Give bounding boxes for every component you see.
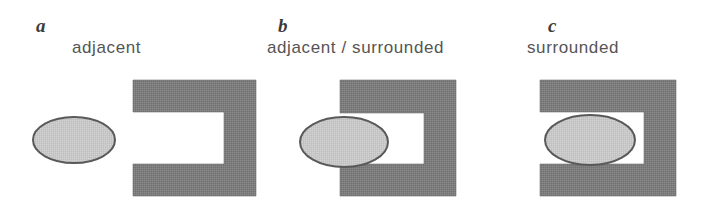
panel-b	[258, 0, 476, 208]
panel-letter-a: a	[36, 16, 46, 35]
figure-container: a adjacent b adjacent / surrounded c sur…	[0, 0, 704, 208]
panel-caption-a: adjacent	[72, 38, 141, 58]
panel-c	[468, 0, 704, 208]
panel-caption-b: adjacent / surrounded	[267, 38, 444, 58]
panel-caption-c: surrounded	[527, 38, 619, 58]
panel-letter-b: b	[278, 16, 288, 35]
panel-letter-c: c	[548, 16, 556, 35]
